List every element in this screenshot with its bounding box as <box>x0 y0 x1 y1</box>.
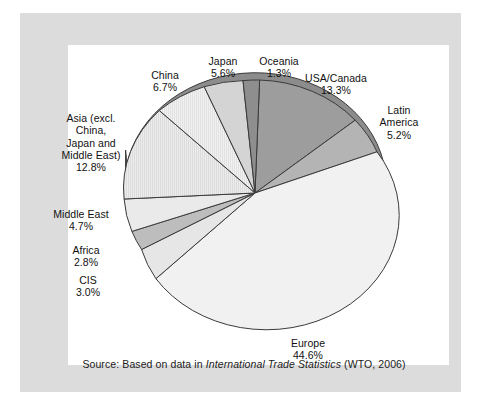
pie-label-cis-name: CIS <box>79 274 97 286</box>
pie-label-japan-value: 5.6% <box>196 67 250 79</box>
figure-screenshot: China 6.7% Japan 5.6% Oceania 1.3% USA/C… <box>0 0 480 404</box>
pie-label-africa-name: Africa <box>72 244 99 256</box>
pie-label-latin-america: Latin America 5.2% <box>368 92 430 153</box>
pie-label-asia: Asia (excl. China, Japan and Middle East… <box>42 100 140 185</box>
pie-label-cis-value: 3.0% <box>58 286 118 298</box>
pie-label-latin-america-value: 5.2% <box>368 129 430 141</box>
source-caption: Source: Based on data in International T… <box>48 358 440 370</box>
pie-label-europe-name: Europe <box>291 337 325 349</box>
pie-label-middle-east-name: Middle East <box>53 208 108 220</box>
pie-label-cis: CIS 3.0% <box>58 262 118 311</box>
pie-label-asia-name: Asia (excl. China, Japan and Middle East… <box>62 112 121 161</box>
pie-label-japan-name: Japan <box>209 55 238 67</box>
pie-label-japan: Japan 5.6% <box>196 43 250 92</box>
pie-label-china: China 6.7% <box>132 57 198 106</box>
pie-label-usa-canada-name: USA/Canada <box>305 72 367 84</box>
pie-label-latin-america-name: Latin America <box>380 104 419 128</box>
source-caption-suffix: (WTO, 2006) <box>341 358 406 370</box>
source-caption-title: International Trade Statistics <box>206 358 341 370</box>
pie-label-asia-value: 12.8% <box>42 161 140 173</box>
pie-label-china-name: China <box>151 69 179 81</box>
source-caption-prefix: Source: Based on data in <box>82 358 205 370</box>
pie-label-middle-east-value: 4.7% <box>34 220 128 232</box>
pie-label-china-value: 6.7% <box>132 81 198 93</box>
